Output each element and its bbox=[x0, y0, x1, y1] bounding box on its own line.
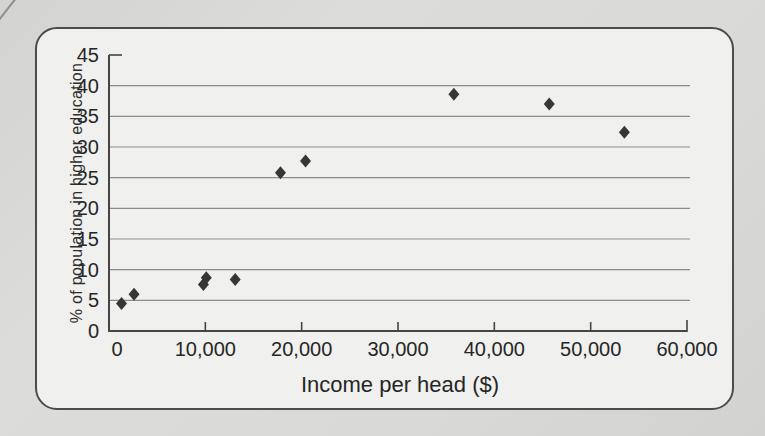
data-point-marker-1 bbox=[129, 288, 140, 301]
x-tick-label-0: 0 bbox=[111, 338, 122, 360]
scatter-chart-svg: 051015202530354045010,00020,00030,00040,… bbox=[0, 0, 765, 436]
x-axis-title: Income per head ($) bbox=[301, 372, 499, 398]
y-tick-label-0: 0 bbox=[88, 320, 99, 342]
x-tick-label-50000: 50,000 bbox=[560, 338, 621, 360]
data-point-marker-4 bbox=[230, 273, 241, 286]
y-tick-label-5: 5 bbox=[88, 289, 99, 311]
x-tick-label-40000: 40,000 bbox=[464, 338, 525, 360]
data-point-marker-6 bbox=[300, 155, 311, 168]
x-tick-label-60000: 60,000 bbox=[656, 338, 717, 360]
data-point-marker-0 bbox=[116, 297, 127, 310]
data-point-marker-9 bbox=[619, 126, 630, 139]
y-axis-title: % of population in higher education bbox=[68, 63, 86, 323]
x-tick-label-30000: 30,000 bbox=[367, 338, 428, 360]
x-tick-label-10000: 10,000 bbox=[175, 338, 236, 360]
data-point-marker-8 bbox=[544, 98, 555, 111]
scanned-page-background: 051015202530354045010,00020,00030,00040,… bbox=[0, 0, 765, 436]
data-point-marker-7 bbox=[448, 88, 459, 101]
x-tick-label-20000: 20,000 bbox=[271, 338, 332, 360]
